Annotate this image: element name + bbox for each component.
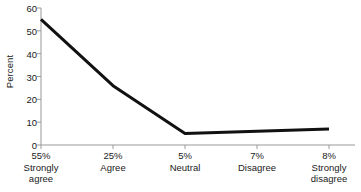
data-line-series bbox=[41, 19, 329, 133]
x-tick-label: Strongly bbox=[283, 162, 361, 174]
x-tick-group-strongly-disagree: 8% Strongly disagree bbox=[283, 150, 361, 185]
y-axis-ticks bbox=[37, 8, 41, 145]
y-axis-title: Percent bbox=[4, 40, 15, 104]
x-tick-percent: 8% bbox=[283, 150, 361, 162]
y-tick-label: 0 bbox=[17, 140, 37, 151]
y-tick-label: 20 bbox=[17, 94, 37, 105]
x-axis-ticks bbox=[41, 145, 329, 149]
x-tick-label-2: agree bbox=[0, 173, 87, 185]
x-tick-label-2: disagree bbox=[283, 173, 361, 185]
line-chart: Percent 60 50 40 30 20 10 0 55% Strongly… bbox=[0, 0, 361, 192]
y-tick-label: 40 bbox=[17, 48, 37, 59]
y-tick-label: 30 bbox=[17, 71, 37, 82]
y-tick-label: 60 bbox=[17, 3, 37, 14]
y-tick-label: 50 bbox=[17, 25, 37, 36]
y-tick-label: 10 bbox=[17, 117, 37, 128]
